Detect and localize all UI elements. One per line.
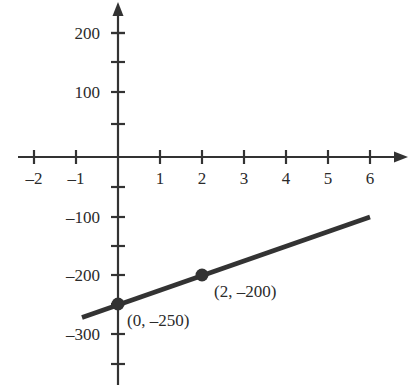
y-tick-label-100: 100 — [38, 84, 100, 101]
point-label-0--250: (0, –250) — [127, 312, 189, 329]
plotted-line — [82, 217, 370, 318]
x-tick-label-6: 6 — [366, 170, 375, 187]
x-tick-label-1: 1 — [156, 170, 165, 187]
x-tick-label--2: –2 — [26, 170, 43, 187]
x-axis-arrowhead — [394, 152, 408, 163]
y-tick-label-200: 200 — [38, 25, 100, 42]
x-tick-label-5: 5 — [324, 170, 333, 187]
x-tick-label-4: 4 — [282, 170, 291, 187]
x-tick-label-2: 2 — [198, 170, 207, 187]
y-tick-label--100: –100 — [30, 209, 100, 226]
y-axis-arrowhead — [113, 2, 124, 16]
x-tick-label--1: –1 — [68, 170, 85, 187]
graph-figure: –2 –1 1 2 3 4 5 6 200 100 –100 –200 –300… — [0, 0, 413, 385]
point-label-2--200: (2, –200) — [214, 283, 276, 300]
data-point-2--200 — [196, 269, 209, 282]
y-tick-label--200: –200 — [30, 267, 100, 284]
y-tick-label--300: –300 — [30, 326, 100, 343]
x-tick-label-3: 3 — [240, 170, 249, 187]
data-point-0--250 — [112, 298, 125, 311]
